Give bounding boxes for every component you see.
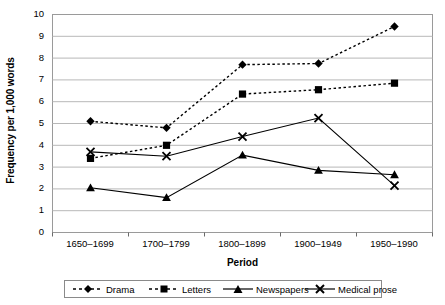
x-tick-4: 1950–1990 xyxy=(356,238,432,249)
legend-label-newspapers: Newspapers xyxy=(256,284,309,295)
legend-item-newspapers[interactable]: Newspapers xyxy=(223,281,309,297)
x-tick-2: 1800–1899 xyxy=(204,238,280,249)
data-point xyxy=(87,155,94,162)
legend-label-medical: Medical prose xyxy=(338,284,397,295)
legend-item-medical-prose[interactable]: Medical prose xyxy=(305,281,397,297)
line-chart: Frequency per 1,000 words 10 9 8 7 6 5 4… xyxy=(0,0,445,305)
drama-marker-icon xyxy=(73,283,103,295)
x-axis-title: Period xyxy=(52,257,433,268)
data-point xyxy=(391,80,398,87)
x-tick-0: 1650–1699 xyxy=(52,238,128,249)
x-tick-1: 1700–1799 xyxy=(128,238,204,249)
newspapers-marker-icon xyxy=(223,283,253,295)
x-axis-ticks xyxy=(53,233,433,237)
legend-item-drama[interactable]: Drama xyxy=(73,281,135,297)
legend-label-letters: Letters xyxy=(182,284,211,295)
medical-prose-marker-icon xyxy=(305,283,335,295)
chart-legend: Drama Letters Newspapers Medical prose xyxy=(64,280,382,298)
data-point xyxy=(239,90,246,97)
legend-label-drama: Drama xyxy=(106,284,135,295)
data-point xyxy=(163,142,170,149)
data-point xyxy=(315,86,322,93)
letters-marker-icon xyxy=(149,283,179,295)
x-tick-3: 1900–1949 xyxy=(280,238,356,249)
legend-item-letters[interactable]: Letters xyxy=(149,281,211,297)
